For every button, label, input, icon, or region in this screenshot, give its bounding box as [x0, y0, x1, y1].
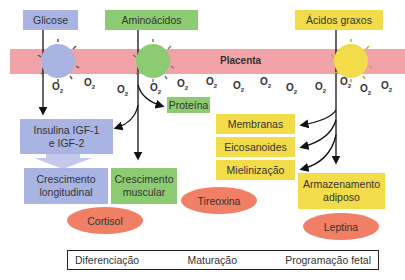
tireoxina-oval: Tireoxina — [181, 187, 257, 214]
oxygen-label: O2 — [52, 81, 63, 94]
oxygen-label: O2 — [340, 76, 351, 89]
mielinizacao-box: Mielinização — [216, 160, 295, 180]
oxygen-label: O2 — [206, 76, 217, 89]
oxygen-label: O2 — [233, 80, 244, 93]
acidos-graxos-transporter-icon — [331, 39, 372, 82]
legend-maturacao: Maturação — [187, 254, 237, 266]
insulina-igf-box: Insulina IGF-1 e IGF-2 — [20, 119, 113, 154]
fetal-growth-diagram: Placenta Glicose Aminoácidos Ácidos grax… — [0, 0, 405, 280]
eicosanoides-box: Eicosanoides — [216, 137, 295, 157]
oxygen-label: O2 — [315, 81, 326, 94]
legend-diferenciacao: Diferenciação — [75, 254, 139, 266]
cortisol-oval: Cortisol — [67, 207, 143, 234]
crescimento-muscular-box: Crescimento muscular — [111, 168, 177, 204]
aminoacidos-transporter-icon — [133, 39, 174, 82]
oxygen-label: O2 — [84, 77, 95, 90]
oxygen-label: O2 — [360, 83, 371, 96]
oxygen-label: O2 — [286, 82, 297, 95]
membranas-box: Membranas — [216, 114, 295, 134]
proteina-box: Proteína — [167, 97, 210, 113]
oxygen-label: O2 — [150, 82, 161, 95]
oxygen-label: O2 — [117, 84, 128, 97]
legend-programacao-fetal: Programação fetal — [285, 254, 371, 266]
crescimento-longitudinal-box: Crescimento longitudinal — [24, 168, 108, 204]
outcome-legend: Diferenciação Maturação Programação feta… — [67, 250, 379, 270]
leptina-oval: Leptina — [303, 213, 379, 240]
oxygen-label: O2 — [381, 80, 392, 93]
oxygen-label: O2 — [260, 76, 271, 89]
armazenamento-adiposo-box: Armazenamento adiposo — [298, 173, 385, 209]
glicose-transporter-icon — [38, 39, 79, 82]
oxygen-label: O2 — [177, 78, 188, 91]
